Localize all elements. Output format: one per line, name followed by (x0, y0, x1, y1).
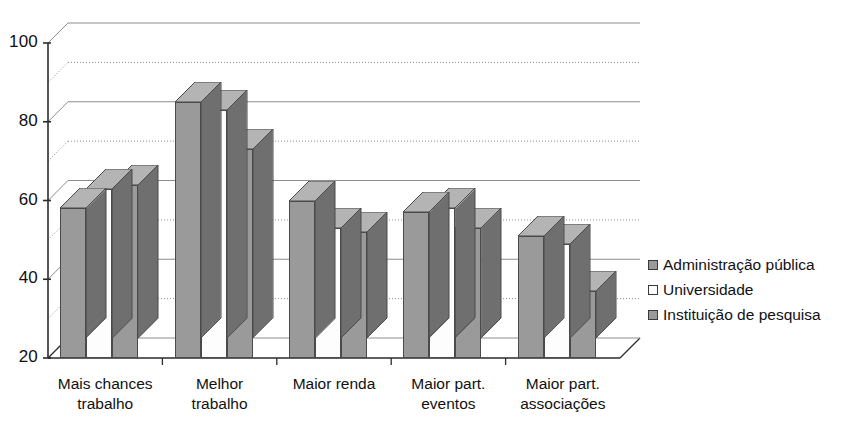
bar-front-face (60, 208, 86, 358)
bar-top-face (289, 181, 337, 203)
bar-2-1 (175, 82, 201, 358)
x-category-label-line: trabalho (140, 394, 300, 414)
bar-4-1 (403, 192, 429, 358)
bar-1-1 (60, 188, 86, 358)
legend-swatch-icon (648, 285, 658, 295)
y-tick-label-60: 60 (0, 190, 38, 210)
legend-item-1: Administração pública (648, 252, 821, 277)
bar-front-face (403, 212, 429, 358)
x-category-label-line: Maior part. (483, 374, 643, 394)
legend-swatch-icon (648, 310, 658, 320)
bar-front-face (518, 236, 544, 358)
bar-top-face (60, 188, 108, 210)
legend: Administração públicaUniversidadeInstitu… (648, 252, 821, 327)
x-category-label-5: Maior part.associações (483, 374, 643, 414)
bar-top-face (518, 216, 566, 238)
y-tick-label-100: 100 (0, 32, 38, 52)
bar-top-face (86, 169, 134, 191)
y-tick-label-20: 20 (0, 347, 38, 367)
bar-top-face (403, 192, 451, 214)
y-tick-label-40: 40 (0, 268, 38, 288)
legend-swatch-icon (648, 260, 658, 270)
bar-top-face (175, 82, 223, 104)
bar-5-1 (518, 216, 544, 358)
legend-item-2: Universidade (648, 277, 821, 302)
x-category-label-line: associações (483, 394, 643, 414)
legend-label: Instituição de pesquisa (663, 306, 821, 324)
bar-chart: 20406080100 Mais chancestrabalhoMelhortr… (0, 0, 865, 445)
bar-front-face (175, 102, 201, 358)
bar-3-1 (289, 181, 315, 359)
y-tick-label-80: 80 (0, 111, 38, 131)
legend-item-3: Instituição de pesquisa (648, 302, 821, 327)
bar-front-face (289, 201, 315, 359)
legend-label: Administração pública (663, 256, 815, 274)
legend-label: Universidade (663, 281, 753, 299)
